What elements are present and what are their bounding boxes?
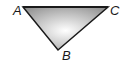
vertex-label-b: B [62, 48, 71, 62]
triangle-diagram: A C B [0, 0, 123, 62]
vertex-label-c: C [110, 3, 120, 18]
triangle-abc [23, 7, 108, 50]
vertex-label-a: A [12, 3, 22, 18]
